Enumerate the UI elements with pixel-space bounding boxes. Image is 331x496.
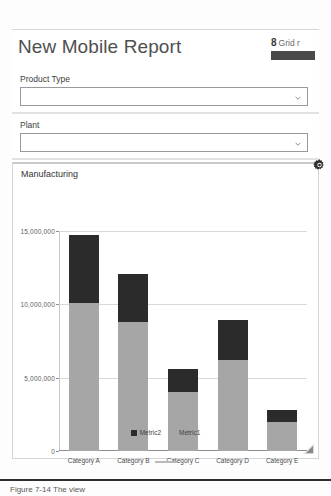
figure-caption: Figure 7-14 The view (10, 485, 310, 496)
legend-label: Metric1 (179, 429, 200, 436)
chevron-down-icon (294, 94, 302, 102)
legend-item[interactable]: Metric2 (131, 429, 161, 436)
grid-color-swatch[interactable] (271, 51, 315, 60)
legend-label: Metric2 (140, 429, 161, 436)
filter-panel-plant: Plant (12, 116, 319, 160)
bar-segment-metric2[interactable] (118, 274, 148, 322)
chevron-down-icon (294, 140, 302, 148)
bar-segment-metric2[interactable] (69, 235, 99, 302)
chart-bar[interactable] (168, 369, 198, 451)
x-tick-label: Category B (117, 457, 150, 464)
grid-rows-count: 8 (271, 37, 277, 48)
chart-plot-area: 05,000,00010,000,00015,000,000 Category … (59, 231, 307, 451)
y-tick-label: 15,000,000 (20, 228, 55, 235)
plant-dropdown[interactable] (20, 133, 308, 152)
bar-segment-metric2[interactable] (218, 320, 248, 360)
report-header: New Mobile Report 8Grid r (12, 30, 319, 70)
y-tick-label: 5,000,000 (24, 374, 55, 381)
bar-segment-metric1[interactable] (168, 392, 198, 451)
chart-panel[interactable]: Manufacturing 05,000,00010,000,00015,000… (12, 162, 319, 459)
bar-segment-metric1[interactable] (218, 360, 248, 451)
page-root: New Mobile Report 8Grid r Product Type (0, 0, 331, 496)
chart-title: Manufacturing (21, 169, 78, 179)
bar-segment-metric1[interactable] (267, 422, 297, 451)
x-tick-label: Category E (266, 457, 299, 464)
filter-label-plant: Plant (20, 120, 39, 130)
y-tick-label: 0 (51, 448, 55, 455)
filter-label-product-type: Product Type (20, 74, 70, 84)
bar-segment-metric2[interactable] (267, 410, 297, 422)
gear-icon[interactable] (312, 158, 327, 173)
x-tick-label: Category A (68, 457, 100, 464)
resize-handle-icon[interactable] (302, 442, 315, 455)
chart-bars-layer (59, 231, 307, 451)
scroll-indicator (155, 461, 177, 463)
filter-panel-product-type: Product Type (12, 70, 319, 114)
chart-bar[interactable] (69, 235, 99, 451)
legend-swatch (170, 430, 176, 436)
page-title: New Mobile Report (18, 36, 181, 58)
y-tick-label: 10,000,000 (20, 301, 55, 308)
chart-legend: Metric2Metric1 (13, 429, 318, 436)
product-type-dropdown[interactable] (20, 87, 308, 106)
bar-segment-metric2[interactable] (168, 369, 198, 392)
grid-rows-line: 8Grid r (271, 35, 319, 49)
y-tick-mark (56, 451, 59, 452)
legend-item[interactable]: Metric1 (170, 429, 200, 436)
grid-rows-indicator[interactable]: 8Grid r (271, 35, 319, 60)
x-tick-label: Category D (216, 457, 249, 464)
footer-divider (0, 479, 331, 481)
chart-bar[interactable] (118, 274, 148, 451)
mobile-report-card: New Mobile Report 8Grid r Product Type (12, 30, 319, 459)
legend-swatch (131, 430, 137, 436)
grid-rows-label: Grid r (279, 38, 300, 48)
